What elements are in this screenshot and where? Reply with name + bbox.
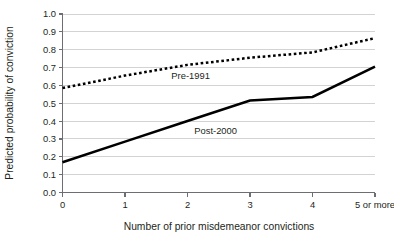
x-tick-label: 5 or more — [355, 199, 394, 210]
y-tick-label: 0.3 — [43, 133, 56, 144]
y-tick-label: 0.8 — [43, 44, 56, 55]
x-axis-title: Number of prior misdemeanor convictions — [124, 221, 315, 232]
y-tick-label: 0.9 — [43, 26, 56, 37]
y-tick-label: 0.0 — [43, 187, 56, 198]
chart-container: 0.00.10.20.30.40.50.60.70.80.91.0 012345… — [0, 0, 394, 238]
line-chart: 0.00.10.20.30.40.50.60.70.80.91.0 012345… — [0, 0, 394, 238]
x-tick-label: 0 — [60, 199, 65, 210]
y-tick-label: 0.5 — [43, 98, 56, 109]
x-tick-label: 2 — [185, 199, 190, 210]
y-tick-label: 0.7 — [43, 62, 56, 73]
series-label-post-2000: Post-2000 — [194, 125, 237, 136]
x-tick-label: 3 — [247, 199, 252, 210]
series-label-pre-1991: Pre-1991 — [171, 70, 210, 81]
y-tick-label: 0.6 — [43, 80, 56, 91]
x-tick-label: 1 — [122, 199, 127, 210]
y-axis-title: Predicted probability of conviction — [4, 26, 15, 180]
y-tick-label: 0.1 — [43, 169, 56, 180]
y-tick-label: 0.2 — [43, 151, 56, 162]
x-tick-label: 4 — [310, 199, 315, 210]
y-tick-label: 0.4 — [43, 116, 56, 127]
y-tick-label: 1.0 — [43, 8, 56, 19]
